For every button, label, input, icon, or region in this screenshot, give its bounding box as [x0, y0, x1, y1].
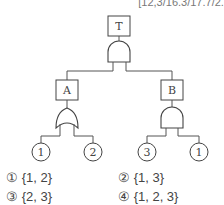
option-text: {1, 2, 3} — [134, 189, 179, 204]
option-marker: ① — [6, 170, 18, 185]
option-2[interactable]: ② {1, 3} — [118, 170, 164, 185]
option-4[interactable]: ④ {1, 2, 3} — [118, 189, 178, 204]
event-b-label: B — [168, 84, 176, 97]
top-event-label: T — [115, 20, 123, 33]
basic-event-label: 1 — [196, 146, 203, 159]
option-marker: ② — [118, 170, 130, 185]
connector-line — [178, 128, 199, 143]
fault-tree-diagram: T A B 1 2 3 1 — [0, 0, 224, 170]
option-text: {1, 2} — [22, 170, 52, 185]
connector-line — [126, 62, 172, 80]
option-text: {2, 3} — [22, 189, 52, 204]
option-1[interactable]: ① {1, 2} — [6, 170, 52, 185]
basic-event-label: 3 — [144, 146, 151, 159]
basic-event-label: 2 — [90, 146, 97, 159]
connector-line — [67, 62, 113, 80]
event-a-label: A — [62, 84, 72, 97]
basic-event-label: 1 — [38, 146, 45, 159]
option-3[interactable]: ③ {2, 3} — [6, 189, 52, 204]
option-marker: ④ — [118, 189, 130, 204]
connector-line — [147, 128, 166, 143]
or-gate-a — [56, 108, 78, 128]
and-gate-t — [108, 41, 130, 62]
and-gate-b — [161, 107, 183, 128]
option-marker: ③ — [6, 189, 18, 204]
option-text: {1, 3} — [134, 170, 164, 185]
